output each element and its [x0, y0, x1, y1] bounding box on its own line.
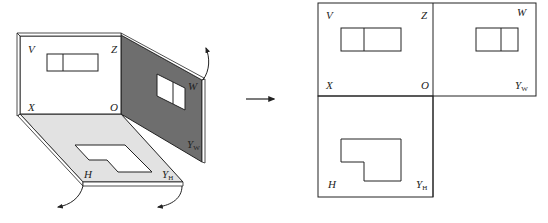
label-z: Z	[421, 9, 428, 21]
label-h: H	[83, 168, 93, 180]
label-h: H	[327, 178, 337, 190]
label-o: O	[421, 79, 429, 91]
projection-diagram: V Z X O W YW H YH	[0, 0, 548, 223]
rotate-arrow-h-left	[58, 186, 83, 207]
side-view	[476, 28, 518, 51]
rotate-arrow-h-right	[158, 186, 182, 207]
left-3d-figure: V Z X O W YW H YH	[17, 33, 209, 207]
label-x: X	[325, 79, 334, 91]
front-view	[341, 28, 401, 51]
label-w: W	[188, 80, 198, 92]
right-unfolded-figure: V Z W X O YW H YH	[318, 3, 536, 197]
label-yh: YH	[416, 178, 427, 192]
label-o: O	[110, 101, 118, 113]
rotate-arrow-w	[203, 48, 209, 80]
label-v: V	[326, 9, 334, 21]
label-z: Z	[111, 43, 118, 55]
top-view	[341, 139, 401, 181]
label-x: X	[27, 101, 36, 113]
label-yw: YW	[515, 79, 528, 93]
label-w: W	[517, 6, 527, 18]
